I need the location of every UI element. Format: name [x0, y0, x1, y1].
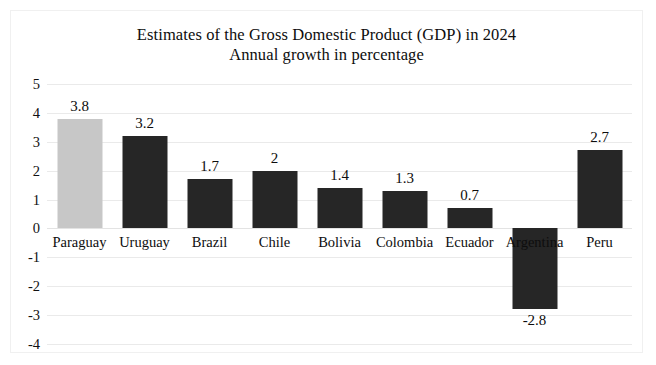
y-axis-tick-label: -1 — [28, 249, 40, 266]
bar-group[interactable]: 0.7Ecuador — [437, 84, 502, 344]
bar[interactable] — [317, 188, 362, 228]
bar[interactable] — [382, 191, 427, 229]
bar[interactable] — [57, 119, 102, 229]
y-axis-tick-label: 4 — [33, 104, 40, 121]
bar-group[interactable]: 2Chile — [242, 84, 307, 344]
bar-value-label: 1.3 — [395, 170, 414, 187]
y-axis-tick-label: -2 — [28, 278, 40, 295]
y-axis-tick-label: -4 — [28, 336, 40, 353]
x-axis-category-label: Ecuador — [445, 234, 493, 251]
y-axis-tick-label: 1 — [33, 191, 40, 208]
chart-subtitle: Annual growth in percentage — [11, 45, 642, 65]
bar[interactable] — [122, 136, 167, 228]
bar-group[interactable]: 2.7Peru — [567, 84, 632, 344]
y-axis-tick-label: 2 — [33, 162, 40, 179]
y-axis-tick-label: 0 — [33, 220, 40, 237]
x-axis-category-label: Bolivia — [318, 234, 361, 251]
bar-value-label: 2 — [271, 150, 279, 167]
bar-value-label: 3.2 — [135, 115, 154, 132]
bar-value-label: 1.7 — [200, 158, 219, 175]
bar[interactable] — [577, 150, 622, 228]
chart-figure: Estimates of the Gross Domestic Product … — [10, 10, 643, 353]
bar-value-label: 2.7 — [590, 129, 609, 146]
y-axis-tick-label: 5 — [33, 76, 40, 93]
bar[interactable] — [252, 171, 297, 229]
y-axis-tick-label: -3 — [28, 307, 40, 324]
plot-area: 543210-1-2-3-4 3.8Paraguay3.2Uruguay1.7B… — [47, 84, 632, 344]
bar-group[interactable]: 1.3Colombia — [372, 84, 437, 344]
gridline: -4 — [47, 344, 632, 345]
bar-series: 3.8Paraguay3.2Uruguay1.7Brazil2Chile1.4B… — [47, 84, 632, 344]
chart-title-block: Estimates of the Gross Domestic Product … — [11, 25, 642, 65]
bar-value-label: 0.7 — [460, 187, 479, 204]
bar[interactable] — [447, 208, 492, 228]
x-axis-category-label: Peru — [586, 234, 613, 251]
bar-group[interactable]: 3.2Uruguay — [112, 84, 177, 344]
y-axis-tick-label: 3 — [33, 133, 40, 150]
bar-value-label: -2.8 — [523, 312, 547, 329]
x-axis-category-label: Uruguay — [119, 234, 170, 251]
bar-group[interactable]: 1.7Brazil — [177, 84, 242, 344]
bar-value-label: 1.4 — [330, 167, 349, 184]
bar-value-label: 3.8 — [70, 98, 89, 115]
x-axis-category-label: Paraguay — [53, 234, 107, 251]
x-axis-category-label: Chile — [259, 234, 290, 251]
bar-group[interactable]: -2.8Argentina — [502, 84, 567, 344]
x-axis-category-label: Brazil — [192, 234, 227, 251]
x-axis-category-label: Argentina — [506, 234, 564, 251]
x-axis-category-label: Colombia — [376, 234, 433, 251]
chart-title: Estimates of the Gross Domestic Product … — [11, 25, 642, 45]
bar-group[interactable]: 1.4Bolivia — [307, 84, 372, 344]
bar-group[interactable]: 3.8Paraguay — [47, 84, 112, 344]
bar[interactable] — [187, 179, 232, 228]
